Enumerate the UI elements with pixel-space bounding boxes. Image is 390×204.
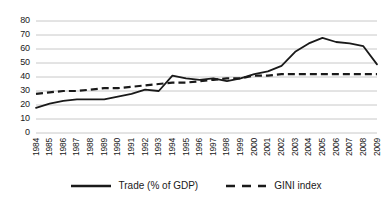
x-axis-tick-label: 1997 [209,138,218,156]
x-axis-tick-label: 2002 [277,138,286,156]
y-axis-tick-label: 70 [10,30,30,39]
x-axis-tick-label: 1996 [195,138,204,156]
y-axis-tick-label: 30 [10,86,30,95]
x-axis-tick-label: 2008 [359,138,368,156]
line-chart: 01020304050607080 1984198519861987198819… [0,0,390,204]
legend-label-gini: GINI index [274,180,321,191]
x-axis-tick-label: 2006 [332,138,341,156]
x-axis-tick-label: 1993 [154,138,163,156]
y-axis-tick-label: 60 [10,44,30,53]
x-axis-tick-label: 1989 [100,138,109,156]
legend-item-trade: Trade (% of GDP) [69,180,199,191]
legend-label-trade: Trade (% of GDP) [119,180,199,191]
x-axis-tick-label: 1986 [59,138,68,156]
x-axis-tick-label: 2009 [373,138,382,156]
x-axis-tick-label: 1992 [141,138,150,156]
x-axis-tick-label: 2007 [345,138,354,156]
y-axis-tick-label: 0 [10,128,30,137]
x-axis-tick-label: 1987 [72,138,81,156]
legend-item-gini: GINI index [224,180,321,191]
x-axis-tick-label: 1991 [127,138,136,156]
plot-area [0,0,390,204]
chart-legend: Trade (% of GDP) GINI index [0,180,390,191]
x-axis-tick-label: 1995 [182,138,191,156]
y-axis-tick-label: 10 [10,114,30,123]
x-axis-tick-label: 1990 [113,138,122,156]
y-axis-tick-label: 40 [10,72,30,81]
x-axis-tick-label: 2000 [250,138,259,156]
x-axis-tick-label: 1994 [168,138,177,156]
x-axis-tick-label: 2001 [263,138,272,156]
x-axis-tick-label: 2004 [304,138,313,156]
x-axis-tick-label: 1998 [222,138,231,156]
y-axis-tick-label: 50 [10,58,30,67]
y-axis-tick-label: 20 [10,100,30,109]
x-axis-tick-label: 1988 [86,138,95,156]
x-axis-tick-label: 1985 [45,138,54,156]
x-axis-tick-label: 2003 [291,138,300,156]
x-axis-tick-label: 2005 [318,138,327,156]
solid-line-swatch [69,181,113,191]
dashed-line-swatch [224,181,268,191]
gridlines [36,21,377,133]
y-axis-tick-label: 80 [10,16,30,25]
series-line-trade-pct-gdp [36,38,377,108]
x-axis-tick-label: 1999 [236,138,245,156]
x-axis-tick-label: 1984 [32,138,41,156]
